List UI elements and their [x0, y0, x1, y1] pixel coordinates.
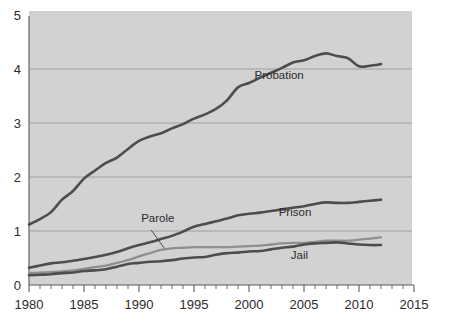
x-tick-label-2005: 2005 — [290, 297, 319, 312]
chart-container: 012345 19801985199019952000200520102015 … — [0, 0, 461, 321]
x-tick-label-1995: 1995 — [180, 297, 209, 312]
y-tick-label-4: 4 — [14, 62, 21, 77]
y-tick-label-1: 1 — [14, 224, 21, 239]
x-tick-label-1980: 1980 — [15, 297, 44, 312]
y-tick-label-2: 2 — [14, 170, 21, 185]
x-tick-label-2000: 2000 — [235, 297, 264, 312]
x-tick-label-2010: 2010 — [345, 297, 374, 312]
y-tick-label-0: 0 — [14, 278, 21, 293]
y-tick-label-5: 5 — [14, 8, 21, 23]
line-chart: 012345 19801985199019952000200520102015 … — [0, 0, 461, 321]
series-label-parole: Parole — [141, 212, 174, 224]
series-label-jail: Jail — [291, 249, 308, 261]
x-tick-label-2015: 2015 — [400, 297, 429, 312]
x-tick-label-1990: 1990 — [125, 297, 154, 312]
y-tick-label-3: 3 — [14, 116, 21, 131]
x-tick-label-1985: 1985 — [70, 297, 99, 312]
series-label-prison: Prison — [279, 206, 312, 218]
series-label-probation: Probation — [255, 69, 304, 81]
